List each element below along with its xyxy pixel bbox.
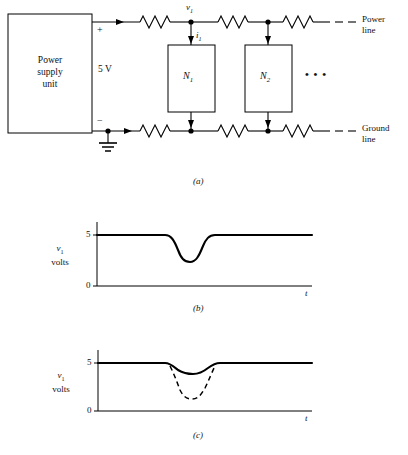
resistor-top-1 xyxy=(140,16,170,28)
current-arrow-n2 xyxy=(265,36,271,44)
resistor-top-3 xyxy=(283,16,313,28)
chart-c-y-axis-label: v1 volts xyxy=(43,370,79,395)
resistor-top-2 xyxy=(218,16,248,28)
chart-c-series-dashed xyxy=(170,366,215,399)
resistor-bottom-3 xyxy=(283,125,313,137)
ellipsis-more-blocks: • • • xyxy=(305,68,327,80)
branch-current-i1-label: i1 xyxy=(196,30,202,42)
caption-c: (c) xyxy=(193,430,203,440)
chart-b-ytick-label-5: 5 xyxy=(86,229,91,239)
chart-b-y-axis-label: v1 volts xyxy=(42,243,78,268)
chart-c-ytick-label-5: 5 xyxy=(87,357,92,367)
terminal-minus-label: − xyxy=(97,115,103,126)
current-return-arrow-n2 xyxy=(265,120,271,128)
chart-c-ytick-label-0: 0 xyxy=(87,405,92,415)
chart-b-ytick-label-0: 0 xyxy=(86,280,91,290)
ground-line-label: Ground line xyxy=(362,123,390,146)
current-direction-arrow-bottom xyxy=(124,128,132,134)
power-line-label: Power line xyxy=(362,14,385,37)
current-i1-arrow xyxy=(188,36,194,44)
caption-b: (b) xyxy=(193,303,204,313)
resistor-bottom-2 xyxy=(218,125,248,137)
block-n1-label: N1 xyxy=(183,70,193,83)
supply-voltage-label: 5 V xyxy=(98,64,112,74)
node-voltage-v1-label: v1 xyxy=(186,2,193,14)
chart-b xyxy=(93,222,312,286)
chart-c-series-solid xyxy=(98,363,312,374)
current-direction-arrow-top xyxy=(116,19,124,25)
chart-c-x-axis-label: t xyxy=(305,413,308,423)
block-n2-label: N2 xyxy=(260,70,270,83)
resistor-bottom-1 xyxy=(140,125,170,137)
chart-c xyxy=(94,350,312,411)
chart-b-series-solid xyxy=(97,235,312,262)
current-return-arrow-n1 xyxy=(188,120,194,128)
chart-b-x-axis-label: t xyxy=(305,288,308,298)
power-supply-unit-label: Power supply unit xyxy=(8,55,92,91)
terminal-plus-label: + xyxy=(97,24,103,35)
caption-a: (a) xyxy=(193,176,204,186)
